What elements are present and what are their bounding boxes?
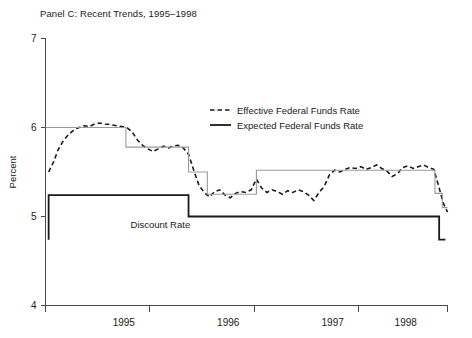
annotations-group: Discount Rate [131, 219, 191, 230]
series-discount-rate [49, 195, 446, 240]
axes-group: 45671995199619971998Percent [7, 33, 448, 328]
y-tick-label: 5 [31, 211, 37, 222]
x-tick-label: 1998 [395, 317, 418, 328]
series-effective-federal-funds-rate [49, 123, 448, 212]
x-tick-label: 1997 [322, 317, 345, 328]
y-axis-title: Percent [7, 155, 18, 188]
legend-label-1: Effective Federal Funds Rate [237, 105, 360, 116]
discount-rate-annotation: Discount Rate [131, 219, 191, 230]
y-tick-label: 6 [31, 122, 37, 133]
y-tick-label: 4 [31, 300, 37, 311]
chart-legend: Effective Federal Funds RateExpected Fed… [210, 105, 363, 131]
y-tick-label: 7 [31, 33, 37, 44]
x-tick-label: 1996 [217, 317, 240, 328]
chart-plot-area: 45671995199619971998Percent Discount Rat… [0, 0, 472, 338]
series-group [46, 123, 448, 240]
chart-figure: Panel C: Recent Trends, 1995–1998 456719… [0, 0, 472, 338]
x-tick-label: 1995 [113, 317, 136, 328]
legend-label-2: Expected Federal Funds Rate [237, 120, 363, 131]
